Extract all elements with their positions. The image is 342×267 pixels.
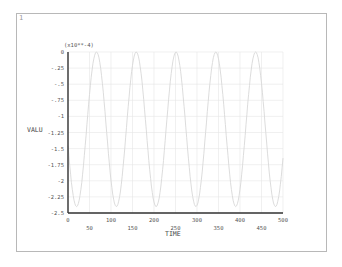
- x-tick-label: 350: [214, 225, 224, 231]
- x-tick-label: 450: [257, 225, 267, 231]
- x-tick-label: 0: [66, 217, 69, 223]
- y-tick-label: -1: [57, 113, 64, 119]
- y-tick-label: -.5: [54, 81, 64, 87]
- line-chart: 0-.25-.5-.75-1-1.25-1.5-1.75-2-2.25-2.5 …: [0, 0, 342, 267]
- y-tick-label: 0: [61, 49, 64, 55]
- y-tick-label: -1.75: [47, 162, 64, 168]
- y-tick-label: -2.25: [47, 194, 64, 200]
- y-tick-label: -2: [57, 178, 64, 184]
- y-axis-label: VALU: [27, 126, 43, 134]
- y-tick-label: -.75: [51, 97, 64, 103]
- x-tick-label: 400: [235, 217, 245, 223]
- x-tick-label: 500: [278, 217, 288, 223]
- y-tick-labels: 0-.25-.5-.75-1-1.25-1.5-1.75-2-2.25-2.5: [47, 49, 64, 216]
- y-multiplier-label: (x10**-4): [64, 42, 94, 48]
- x-tick-label: 50: [86, 225, 93, 231]
- x-tick-label: 150: [128, 225, 138, 231]
- x-tick-labels: 010020030040050050150250350450: [66, 217, 288, 231]
- x-tick-label: 300: [192, 217, 202, 223]
- y-tick-label: -.25: [51, 65, 64, 71]
- x-tick-label: 200: [149, 217, 159, 223]
- y-tick-label: -2.5: [51, 210, 64, 216]
- x-axis-label: TIME: [165, 230, 181, 238]
- y-tick-label: -1.5: [51, 146, 64, 152]
- y-tick-label: -1.25: [47, 130, 64, 136]
- x-tick-label: 100: [106, 217, 116, 223]
